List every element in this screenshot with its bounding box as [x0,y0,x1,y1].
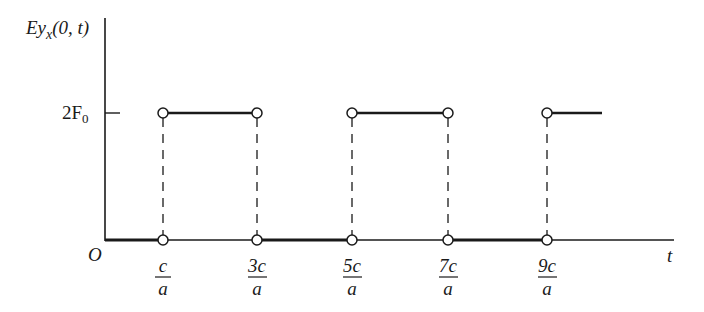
svg-text:a: a [542,278,552,299]
svg-text:7c: 7c [439,255,458,276]
x-tick-7c-over-a: 7c a [439,255,458,299]
origin-label: O [88,244,102,265]
svg-text:a: a [252,278,262,299]
x-tick-9c-over-a: 9c a [538,255,557,299]
x-tick-5c-over-a: 5c a [343,255,362,299]
step-chart: Eyx(0, t) 2F0 O t c a 3c a 5c a 7c a 9c [0,0,704,312]
y-tick-label-2f0: 2F0 [62,102,89,126]
dashed-transitions [163,118,547,235]
svg-text:3c: 3c [247,255,267,276]
x-axis-label: t [667,245,673,266]
x-tick-c-over-a: c a [155,255,171,299]
svg-text:c: c [159,255,168,276]
x-tick-3c-over-a: 3c a [247,255,267,299]
svg-text:a: a [158,278,168,299]
svg-text:5c: 5c [343,255,362,276]
open-circle-markers [158,108,552,245]
svg-text:a: a [443,278,453,299]
x-tick-labels: c a 3c a 5c a 7c a 9c a [155,255,557,299]
svg-text:a: a [347,278,357,299]
svg-text:9c: 9c [538,255,557,276]
y-axis-label: Eyx(0, t) [25,17,89,42]
